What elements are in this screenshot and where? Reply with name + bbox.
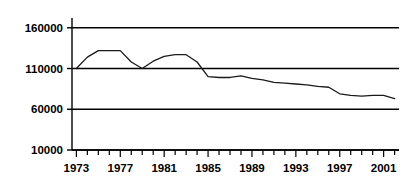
x-tick-label: 1977 <box>107 162 133 174</box>
y-axis-labels-group: 1000060000110000160000 <box>25 22 63 156</box>
x-tick-label: 1993 <box>283 162 309 174</box>
y-tick-label: 160000 <box>25 22 63 34</box>
data-series-line <box>76 51 394 99</box>
line-chart: 1000060000110000160000 19731977198119851… <box>0 0 408 186</box>
y-tick-label: 60000 <box>31 103 63 115</box>
x-tick-label: 1989 <box>239 162 265 174</box>
y-axis-ticks-group <box>67 28 72 150</box>
x-tick-label: 1997 <box>327 162 353 174</box>
y-tick-label: 110000 <box>25 63 63 75</box>
x-axis-labels-group: 19731977198119851989199319972001 <box>64 162 397 174</box>
x-tick-label: 1973 <box>64 162 90 174</box>
x-tick-label: 2001 <box>371 162 397 174</box>
x-tick-label: 1981 <box>151 162 177 174</box>
y-tick-label: 10000 <box>31 144 63 156</box>
chart-container: 1000060000110000160000 19731977198119851… <box>0 0 408 186</box>
x-tick-label: 1985 <box>195 162 221 174</box>
x-axis-ticks-group <box>76 150 394 157</box>
gridlines-group <box>72 28 399 150</box>
